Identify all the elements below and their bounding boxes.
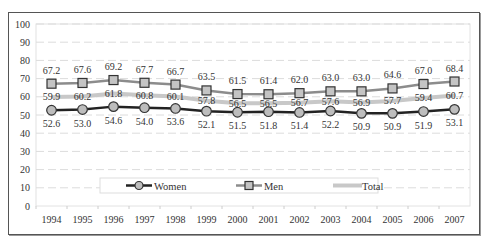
total-data-label: 56.9 (353, 97, 371, 108)
total-data-label: 56.7 (291, 97, 309, 108)
legend-men-label: Men (264, 181, 284, 192)
men-data-label: 67.2 (43, 65, 61, 76)
women-marker (109, 102, 119, 112)
women-data-label: 52.1 (198, 119, 216, 130)
men-data-label: 63.0 (353, 72, 371, 83)
men-marker (140, 78, 149, 87)
women-data-label: 51.9 (415, 120, 433, 131)
women-data-label: 52.6 (43, 118, 61, 129)
x-tick-label: 2006 (414, 214, 434, 225)
men-data-label: 63.0 (322, 72, 340, 83)
total-data-label: 56.5 (260, 98, 278, 109)
women-data-label: 50.9 (384, 121, 402, 132)
women-marker (202, 106, 212, 116)
x-tick-label: 2002 (290, 214, 310, 225)
x-tick-label: 2007 (445, 214, 465, 225)
total-data-label: 56.5 (229, 98, 247, 109)
y-tick-label: 30 (20, 146, 30, 157)
women-marker (357, 109, 367, 119)
men-data-label: 69.2 (105, 61, 123, 72)
men-marker (326, 87, 335, 96)
total-data-label: 59.4 (415, 92, 433, 103)
y-tick-label: 80 (20, 55, 30, 66)
total-data-label: 61.8 (105, 88, 123, 99)
women-data-label: 51.5 (229, 120, 247, 131)
x-tick-label: 1996 (104, 214, 124, 225)
total-data-label: 57.7 (384, 95, 402, 106)
y-tick-label: 0 (25, 201, 30, 212)
legend-women-marker (135, 182, 143, 190)
women-marker (78, 105, 88, 115)
y-tick-label: 50 (20, 110, 30, 121)
men-marker (78, 78, 87, 87)
women-marker (419, 107, 429, 117)
x-tick-label: 1994 (42, 214, 62, 225)
total-data-label: 57.6 (322, 96, 340, 107)
x-tick-label: 2001 (259, 214, 279, 225)
women-data-label: 53.0 (74, 118, 92, 129)
women-data-label: 53.1 (446, 117, 464, 128)
men-data-label: 62.0 (291, 74, 309, 85)
women-marker (233, 107, 243, 117)
x-tick-label: 1997 (135, 214, 155, 225)
legend-men-marker (245, 182, 253, 190)
y-tick-label: 100 (15, 19, 30, 30)
women-marker (450, 105, 460, 115)
men-marker (357, 87, 366, 96)
y-tick-label: 40 (20, 128, 30, 139)
women-marker (388, 109, 398, 119)
men-data-label: 61.5 (229, 75, 247, 86)
y-tick-label: 60 (20, 91, 30, 102)
women-data-label: 53.6 (167, 116, 185, 127)
women-marker (326, 106, 336, 116)
men-data-label: 64.6 (384, 69, 402, 80)
total-data-label: 60.2 (74, 91, 92, 102)
total-data-label: 60.7 (446, 90, 464, 101)
women-data-label: 50.9 (353, 121, 371, 132)
women-data-label: 54.0 (136, 116, 154, 127)
men-marker (47, 79, 56, 88)
y-tick-label: 20 (20, 164, 30, 175)
men-data-label: 67.0 (415, 65, 433, 76)
men-marker (109, 76, 118, 85)
women-data-label: 51.4 (291, 120, 309, 131)
men-data-label: 66.7 (167, 66, 185, 77)
x-tick-label: 2000 (228, 214, 248, 225)
women-marker (47, 105, 57, 115)
y-tick-label: 70 (20, 73, 30, 84)
legend-women-label: Women (154, 181, 187, 192)
women-data-label: 54.6 (105, 115, 123, 126)
women-marker (171, 104, 181, 114)
legend-total-label: Total (362, 181, 384, 192)
line-chart: 0102030405060708090100199419951996199719… (0, 0, 486, 239)
men-marker (388, 84, 397, 93)
x-tick-label: 2005 (383, 214, 403, 225)
men-data-label: 61.4 (260, 75, 278, 86)
y-tick-label: 90 (20, 37, 30, 48)
women-marker (295, 108, 305, 118)
men-data-label: 67.6 (74, 64, 92, 75)
men-marker (295, 89, 304, 98)
total-data-label: 60.1 (167, 91, 185, 102)
total-data-label: 59.9 (43, 91, 61, 102)
total-data-label: 60.8 (136, 90, 154, 101)
men-data-label: 63.5 (198, 71, 216, 82)
women-marker (140, 103, 150, 113)
men-marker (171, 80, 180, 89)
total-data-label: 57.8 (198, 95, 216, 106)
men-marker (450, 77, 459, 86)
x-tick-label: 1999 (197, 214, 217, 225)
men-data-label: 67.7 (136, 64, 154, 75)
x-tick-label: 2003 (321, 214, 341, 225)
women-data-label: 51.8 (260, 120, 278, 131)
women-data-label: 52.2 (322, 119, 340, 130)
men-marker (202, 86, 211, 95)
x-tick-label: 2004 (352, 214, 372, 225)
men-marker (419, 80, 428, 89)
x-tick-label: 1995 (73, 214, 93, 225)
x-tick-label: 1998 (166, 214, 186, 225)
men-data-label: 68.4 (446, 63, 464, 74)
y-tick-label: 10 (20, 182, 30, 193)
